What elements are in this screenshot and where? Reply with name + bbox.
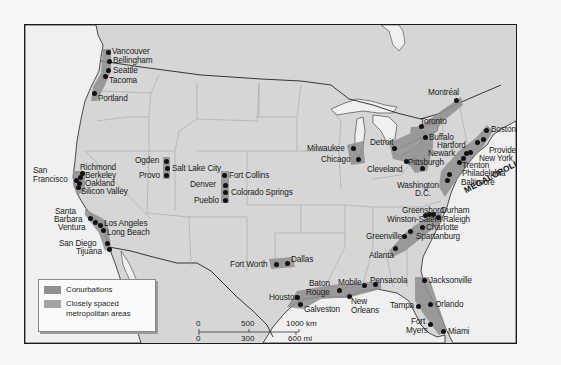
city-dot-provo — [164, 173, 169, 178]
label-portland: Portland — [98, 94, 128, 103]
scale-mi-end: 600 mi — [288, 334, 312, 343]
city-dot-spartanburg — [408, 229, 413, 234]
label-fort-worth: Fort Worth — [230, 260, 268, 269]
label-orlando: Orlando — [435, 300, 463, 309]
label-san: San — [33, 166, 47, 175]
city-dot-salt-lake-city — [165, 166, 170, 171]
label-colorado-springs: Colorado Springs — [231, 188, 293, 197]
city-dot-galveston — [298, 302, 303, 307]
label-spartanburg: Spartanburg — [416, 232, 460, 241]
city-dot-santa-barbara — [88, 216, 93, 221]
city-dot-milwaukee — [351, 146, 356, 151]
label-toronto: Toronto — [420, 117, 447, 126]
city-dot-portland — [92, 91, 97, 96]
label-greenville: Greenville — [366, 232, 402, 241]
city-dot-atlanta — [393, 246, 398, 251]
hudson-bay — [381, 25, 405, 51]
city-dot-fort-myers — [428, 322, 433, 327]
label-ventura: Ventura — [58, 223, 86, 232]
city-dot-boston — [484, 128, 489, 133]
city-dot-los-angeles — [98, 223, 103, 228]
label-galveston: Galveston — [304, 305, 340, 314]
city-dot-dallas — [285, 261, 290, 266]
city-dot-pittsburgh — [420, 166, 425, 171]
city-dot-philadelphia — [457, 160, 462, 165]
city-dot-tijuana — [107, 247, 112, 252]
label-fort-collins: Fort Collins — [229, 171, 269, 180]
label-miami: Miami — [448, 327, 469, 336]
city-dot-baton-rouge — [337, 288, 342, 293]
label-detroit: Detroit — [370, 138, 393, 147]
city-dot-buffalo — [423, 135, 428, 140]
label-tijuana: Tijuana — [76, 247, 102, 256]
city-dot-detroit — [392, 146, 397, 151]
city-dot-ventura — [93, 220, 98, 225]
scale-km-end: 1000 km — [286, 319, 317, 328]
label-new: New — [351, 297, 367, 306]
map-frame: Vancouver Bellingham Seattle Tacoma Port… — [24, 24, 517, 344]
city-dot-colorado-springs — [223, 190, 228, 195]
label-seattle: Seattle — [113, 66, 138, 75]
label-tacoma: Tacoma — [109, 76, 137, 85]
city-dot-san-diego — [105, 241, 110, 246]
city-dot-fort-worth — [274, 262, 279, 267]
label-vancouver: Vancouver — [112, 47, 150, 56]
label-los-angeles: Los Angeles — [104, 219, 148, 228]
label-charlotte: Charlotte — [426, 223, 458, 232]
lake-superior — [331, 99, 397, 115]
legend-label-line1: Closely spaced — [66, 299, 119, 308]
legend-label-line2: metropolitan areas — [66, 309, 131, 318]
city-dot-mobile — [362, 283, 367, 288]
label-denver: Denver — [190, 180, 216, 189]
label-provo: Provo — [139, 171, 160, 180]
city-dot-chicago — [356, 157, 361, 162]
label-ogden: Ogden — [135, 156, 159, 165]
label-francisco: Francisco — [33, 175, 68, 184]
city-dot-raleigh — [436, 215, 441, 220]
city-dot-ogden — [164, 159, 169, 164]
city-dot-pensacola — [373, 282, 378, 287]
label-salt-lake-city: Salt Lake City — [172, 164, 221, 173]
label-milwaukee: Milwaukee — [307, 144, 345, 153]
city-dot-bellingham — [107, 59, 112, 64]
scale-km-mid: 500 — [241, 319, 254, 328]
city-dot-pueblo — [223, 198, 228, 203]
city-dot-long-beach — [101, 228, 106, 233]
city-dot-tacoma — [103, 74, 108, 79]
city-dot-tampa — [416, 304, 421, 309]
city-dot-hartford — [475, 140, 480, 145]
legend-label: Conurbations — [66, 285, 112, 295]
city-dot-toronto — [419, 124, 424, 129]
label-pittsburgh: Pittsburgh — [408, 158, 444, 167]
legend-item-conurbations: Conurbations — [44, 285, 112, 295]
city-dot-charlotte — [420, 225, 425, 230]
label-pueblo: Pueblo — [194, 196, 219, 205]
city-dot-silicon-valley — [76, 185, 81, 190]
city-dot-denver — [223, 183, 228, 188]
label-rouge: Rouge — [306, 288, 330, 297]
label-silicon-valley: Silicon Valley — [81, 187, 128, 196]
city-dot-miami — [441, 329, 446, 334]
city-dot-new-york — [468, 150, 473, 155]
label-jacksonville: Jacksonville — [429, 276, 472, 285]
legend-item-metro-areas: Closely spaced metropolitan areas — [44, 299, 131, 319]
label-orleans: Orleans — [351, 306, 379, 315]
label-dallas: Dallas — [291, 255, 313, 264]
label-fort: Fort — [411, 317, 425, 326]
label-long-beach: Long Beach — [107, 228, 150, 237]
city-dot-orlando — [428, 302, 433, 307]
label-chicago: Chicago — [321, 155, 350, 164]
label-tampa: Tampa — [390, 301, 414, 310]
city-dot-montreal — [454, 98, 459, 103]
city-dot-houston — [295, 295, 300, 300]
label-cleveland: Cleveland — [367, 165, 403, 174]
label-bellingham: Bellingham — [113, 56, 153, 65]
label-baton: Baton — [309, 279, 330, 288]
city-dot-jacksonville — [422, 278, 427, 283]
metro-swatch-icon — [44, 300, 61, 308]
city-dot-washington-dc — [445, 178, 450, 183]
label-boston: Boston — [491, 125, 516, 134]
city-dot-greenville — [402, 234, 407, 239]
legend: Conurbations Closely spaced metropolitan… — [38, 279, 156, 332]
label-montreal: Montréal — [428, 88, 459, 97]
